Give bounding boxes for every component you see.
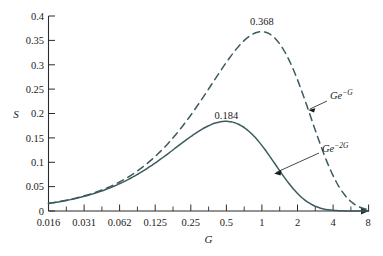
y-tick-label: 0.35: [26, 35, 44, 46]
x-tick-label: 2: [295, 217, 300, 228]
y-tick-label: 0.25: [26, 84, 44, 95]
series-curve-ge-minus-2g: [49, 121, 369, 211]
x-axis-tick-labels: 0.016 0.031 0.062 0.125 0.25 0.5 1 2 4 8: [37, 217, 371, 228]
y-tick-label: 0.05: [26, 181, 44, 192]
x-tick-label: 0.062: [108, 217, 132, 228]
series-label-exponent: −G: [342, 88, 353, 97]
callout-leader-line: [310, 101, 327, 109]
callout-ge-minus-g: Ge−G: [308, 88, 353, 113]
x-tick-label: 1: [259, 217, 264, 228]
chart-canvas: 0.4 0.35 0.3 0.25 0.2 0.15 0.1 0.05 0 S: [0, 0, 383, 256]
series-curve-ge-minus-g: [49, 32, 369, 210]
peak-label-ge-minus-2g: 0.184: [215, 110, 239, 121]
callout-leader-line: [276, 153, 319, 173]
x-axis-minor-ticks: [66, 207, 351, 212]
series-label-base: Ge: [322, 143, 335, 154]
series-label-exponent: −2G: [334, 141, 349, 150]
y-tick-label: 0.1: [31, 157, 44, 168]
series-label-base: Ge: [330, 90, 343, 101]
series-label-ge-minus-g: Ge−G: [330, 88, 353, 101]
x-tick-label: 0.25: [182, 217, 200, 228]
chart-figure: 0.4 0.35 0.3 0.25 0.2 0.15 0.1 0.05 0 S: [0, 0, 383, 256]
peak-label-ge-minus-g: 0.368: [250, 16, 274, 27]
x-tick-label: 8: [365, 217, 370, 228]
callout-arrowhead: [308, 108, 315, 112]
y-tick-label: 0.4: [31, 11, 45, 22]
callout-ge-minus-2g: Ge−2G: [274, 141, 349, 175]
y-axis-tick-labels: 0.4 0.35 0.3 0.25 0.2 0.15 0.1 0.05 0: [26, 11, 45, 217]
x-axis-title: G: [205, 233, 213, 245]
x-tick-label: 0.031: [72, 217, 96, 228]
y-axis-ticks: [49, 16, 56, 211]
y-tick-label: 0.15: [26, 133, 44, 144]
x-tick-label: 0.016: [37, 217, 61, 228]
x-tick-label: 0.125: [143, 217, 167, 228]
y-axis-title: S: [13, 108, 19, 120]
series-label-ge-minus-2g: Ge−2G: [322, 141, 349, 154]
x-tick-label: 0.5: [220, 217, 233, 228]
y-tick-label: 0.3: [31, 60, 44, 71]
x-tick-label: 4: [330, 217, 336, 228]
y-tick-label: 0.2: [31, 108, 44, 119]
y-tick-label: 0: [39, 206, 44, 217]
